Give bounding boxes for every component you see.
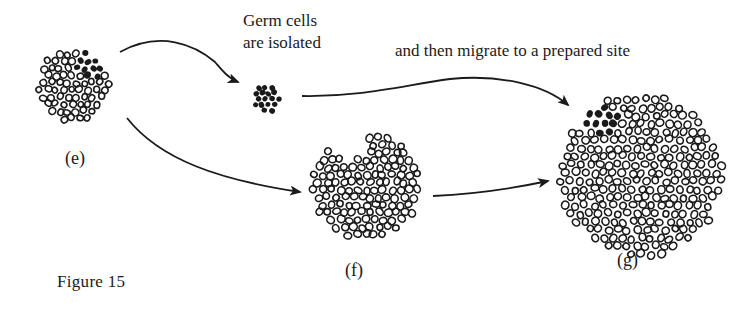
annotation-line-1: Germ cells [243, 10, 321, 32]
arrow-germ-to-g [302, 78, 568, 105]
stage-label-f: (f) [345, 260, 363, 281]
arrow-e-to-germ [120, 41, 238, 82]
stage-label-e: (e) [65, 148, 85, 169]
arrow-e-to-f [127, 118, 300, 192]
figure-caption: Figure 15 [57, 272, 125, 292]
cell-cluster-f [308, 133, 421, 239]
annotation-line-2: are isolated [243, 32, 321, 54]
arrow-f-to-g [433, 181, 548, 196]
migrate-annotation: and then migrate to a prepared site [395, 41, 630, 61]
germ-cell-cluster [252, 84, 282, 115]
cell-cluster-e [35, 49, 113, 124]
stage-label-g: (g) [617, 250, 638, 271]
germ-cells-annotation: Germ cells are isolated [243, 10, 321, 54]
cell-cluster-g [556, 94, 727, 261]
